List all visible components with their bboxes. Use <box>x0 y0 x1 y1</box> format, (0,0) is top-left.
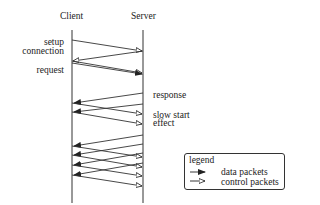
server-label: Server <box>131 12 156 21</box>
response-label: response <box>153 91 186 100</box>
setup-label-line2: connection <box>22 47 64 56</box>
slow-start-label-line2: effect <box>153 119 174 128</box>
client-label: Client <box>60 12 83 21</box>
legend-item-control: control packets <box>221 177 279 187</box>
request-label: request <box>37 66 64 75</box>
legend-item-data: data packets <box>221 167 268 177</box>
legend-title: legend <box>189 155 214 165</box>
legend-box: legend data packets control packets <box>184 153 285 190</box>
